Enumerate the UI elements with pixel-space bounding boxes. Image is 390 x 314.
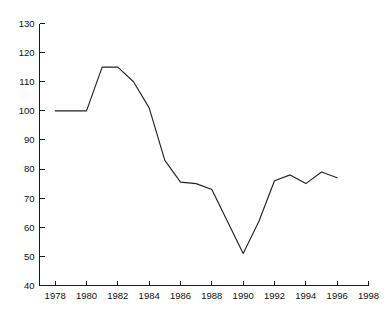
x-tick-label: 1982 bbox=[107, 290, 128, 301]
data-series-group bbox=[55, 67, 337, 253]
y-tick-label: 70 bbox=[24, 193, 35, 204]
y-tick-label: 120 bbox=[19, 47, 35, 58]
y-tick-label: 90 bbox=[24, 134, 35, 145]
chart-canvas: 405060708090100110120130 197819801982198… bbox=[0, 0, 390, 314]
y-tick-label: 100 bbox=[19, 105, 35, 116]
x-tick-label: 1988 bbox=[201, 290, 222, 301]
y-axis: 405060708090100110120130 bbox=[19, 18, 45, 291]
x-tick-label: 1978 bbox=[45, 290, 66, 301]
x-tick-label: 1998 bbox=[358, 290, 379, 301]
y-tick-label: 80 bbox=[24, 163, 35, 174]
x-tick-label: 1986 bbox=[170, 290, 191, 301]
x-tick-label: 1984 bbox=[139, 290, 160, 301]
x-tick-label: 1990 bbox=[233, 290, 254, 301]
x-tick-label: 1992 bbox=[264, 290, 285, 301]
x-axis: 1978198019821984198619881990199219941996… bbox=[40, 281, 380, 301]
y-tick-label: 50 bbox=[24, 251, 35, 262]
y-tick-label: 110 bbox=[19, 76, 34, 87]
x-tick-label: 1980 bbox=[76, 290, 97, 301]
x-tick-label: 1996 bbox=[327, 290, 348, 301]
line-chart: 405060708090100110120130 197819801982198… bbox=[0, 0, 390, 314]
y-tick-label: 60 bbox=[24, 222, 35, 233]
x-tick-label: 1994 bbox=[295, 290, 316, 301]
y-tick-label: 130 bbox=[19, 18, 35, 29]
data-line-series-1 bbox=[55, 67, 337, 253]
y-tick-label: 40 bbox=[24, 280, 35, 291]
